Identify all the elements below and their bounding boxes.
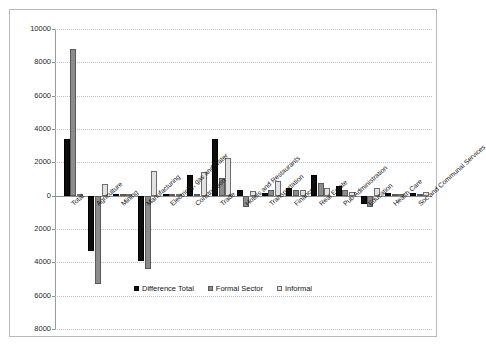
chart-frame: 10000800060004000200002000400060008000 T… xyxy=(9,9,437,337)
bar-difference-total[interactable] xyxy=(187,175,193,196)
bar-formal-sector[interactable] xyxy=(268,190,274,196)
bar-informal[interactable] xyxy=(398,194,404,196)
y-axis-tick-label: 8000 xyxy=(34,58,51,66)
legend-label: Formal Sector xyxy=(216,284,263,293)
bar-formal-sector[interactable] xyxy=(70,49,76,196)
y-axis-tick-label: 2000 xyxy=(34,158,51,166)
bar-formal-sector[interactable] xyxy=(120,194,126,196)
bar-difference-total[interactable] xyxy=(64,139,70,196)
bar-formal-sector[interactable] xyxy=(392,194,398,196)
bar-difference-total[interactable] xyxy=(138,196,144,262)
bar-informal[interactable] xyxy=(250,191,256,196)
bar-informal[interactable] xyxy=(201,172,207,196)
bar-formal-sector[interactable] xyxy=(293,190,299,196)
light-square-icon xyxy=(277,286,282,291)
bar-informal[interactable] xyxy=(324,188,330,196)
y-tick-mark xyxy=(52,329,55,330)
y-axis-tick-label: 2000 xyxy=(34,225,51,233)
bar-formal-sector[interactable] xyxy=(243,196,249,208)
legend-item[interactable]: Difference Total xyxy=(134,284,194,293)
bar-formal-sector[interactable] xyxy=(219,178,225,196)
bar-formal-sector[interactable] xyxy=(145,196,151,269)
bar-informal[interactable] xyxy=(102,184,108,196)
bar-informal[interactable] xyxy=(423,192,429,196)
bar-formal-sector[interactable] xyxy=(342,190,348,196)
bar-difference-total[interactable] xyxy=(212,139,218,196)
y-axis-tick-label: 4000 xyxy=(34,125,51,133)
y-axis-tick-label: 6000 xyxy=(34,292,51,300)
bar-formal-sector[interactable] xyxy=(367,196,373,208)
legend-item[interactable]: Formal Sector xyxy=(208,284,263,293)
legend-item[interactable]: Informal xyxy=(277,284,312,293)
bar-informal[interactable] xyxy=(349,192,355,196)
black-square-icon xyxy=(134,286,139,291)
bar-informal[interactable] xyxy=(275,181,281,196)
bar-difference-total[interactable] xyxy=(336,186,342,196)
bar-difference-total[interactable] xyxy=(163,194,169,196)
bar-informal[interactable] xyxy=(374,188,380,196)
bar-difference-total[interactable] xyxy=(237,190,243,196)
bar-formal-sector[interactable] xyxy=(95,196,101,284)
y-axis-tick-label: 0 xyxy=(47,192,51,200)
chart-legend: Difference TotalFormal SectorInformal xyxy=(10,284,436,293)
bar-informal[interactable] xyxy=(300,190,306,196)
bar-formal-sector[interactable] xyxy=(417,194,423,196)
bar-difference-total[interactable] xyxy=(262,193,268,196)
gray-square-icon xyxy=(208,286,213,291)
bar-informal[interactable] xyxy=(151,171,157,196)
bar-difference-total[interactable] xyxy=(88,196,94,251)
bar-informal[interactable] xyxy=(126,194,132,196)
y-axis-tick-label: 8000 xyxy=(34,325,51,333)
bar-formal-sector[interactable] xyxy=(194,194,200,196)
bar-informal[interactable] xyxy=(77,194,83,196)
bar-difference-total[interactable] xyxy=(113,194,119,196)
y-axis-tick-label: 10000 xyxy=(30,25,51,33)
bar-difference-total[interactable] xyxy=(286,188,292,196)
bar-difference-total[interactable] xyxy=(410,193,416,196)
bar-difference-total[interactable] xyxy=(361,196,367,204)
bar-formal-sector[interactable] xyxy=(169,194,175,196)
gridline xyxy=(55,329,432,330)
bar-difference-total[interactable] xyxy=(385,193,391,196)
y-axis-tick-label: 4000 xyxy=(34,258,51,266)
legend-label: Informal xyxy=(285,284,312,293)
bar-difference-total[interactable] xyxy=(311,175,317,196)
bar-informal[interactable] xyxy=(225,158,231,196)
bar-formal-sector[interactable] xyxy=(318,183,324,196)
y-axis-tick-label: 6000 xyxy=(34,92,51,100)
legend-label: Difference Total xyxy=(142,284,194,293)
bar-informal[interactable] xyxy=(176,194,182,196)
